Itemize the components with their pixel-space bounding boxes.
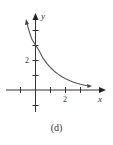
y-tick-label-2: 2 (25, 56, 29, 65)
x-tick-label-2: 2 (63, 95, 67, 104)
y-axis-label: y (40, 11, 45, 21)
figure-caption: (d) (0, 122, 113, 133)
curve-end-arrow-icon (87, 84, 92, 88)
y-axis-arrow-icon (33, 13, 39, 20)
curve-start-arrow-icon (25, 19, 29, 25)
x-axis-arrow-icon (99, 87, 106, 93)
x-axis-label: x (97, 94, 102, 104)
